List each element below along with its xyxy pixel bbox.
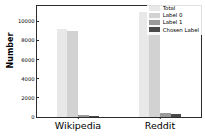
legend-label: Label 0 bbox=[163, 12, 183, 18]
y-axis-tick-mark bbox=[37, 59, 39, 60]
y-axis-tick-mark bbox=[37, 97, 39, 98]
y-axis-tick-mark bbox=[37, 40, 39, 41]
legend-label: Total bbox=[163, 5, 176, 11]
x-axis-tick: Reddit bbox=[145, 117, 175, 131]
y-axis-tick-label: 8000 bbox=[21, 37, 37, 43]
y-axis-tick-label: 4000 bbox=[21, 76, 37, 82]
legend-swatch bbox=[149, 20, 160, 25]
bar bbox=[57, 29, 68, 117]
x-axis-tick-label: Reddit bbox=[145, 120, 175, 131]
x-axis-tick-label: Wikipedia bbox=[55, 120, 101, 131]
legend-item: Chosen Label bbox=[149, 27, 199, 33]
y-axis-tick-label: 6000 bbox=[21, 57, 37, 63]
y-axis-label: Number bbox=[6, 23, 15, 79]
legend-swatch bbox=[149, 27, 160, 32]
legend-swatch bbox=[149, 13, 160, 18]
x-axis-tick-mark bbox=[78, 117, 79, 119]
y-axis-tick-mark bbox=[37, 78, 39, 79]
y-axis-tick-label: 2000 bbox=[21, 95, 37, 101]
legend-item: Label 0 bbox=[149, 12, 199, 18]
chart-legend: TotalLabel 0Label 1Chosen Label bbox=[147, 3, 202, 35]
legend-item: Label 1 bbox=[149, 19, 199, 25]
x-axis-tick-mark bbox=[159, 117, 160, 119]
chart-figure: Number 0200040006000800010000WikipediaRe… bbox=[0, 0, 205, 140]
x-axis-tick: Wikipedia bbox=[55, 117, 101, 131]
legend-label: Chosen Label bbox=[163, 27, 199, 33]
legend-label: Label 1 bbox=[163, 19, 183, 25]
y-axis-tick-mark bbox=[37, 117, 39, 118]
y-axis-tick-mark bbox=[37, 21, 39, 22]
legend-item: Total bbox=[149, 5, 199, 11]
legend-swatch bbox=[149, 6, 160, 11]
bar bbox=[67, 31, 78, 117]
y-axis-tick-label: 10000 bbox=[18, 18, 37, 24]
